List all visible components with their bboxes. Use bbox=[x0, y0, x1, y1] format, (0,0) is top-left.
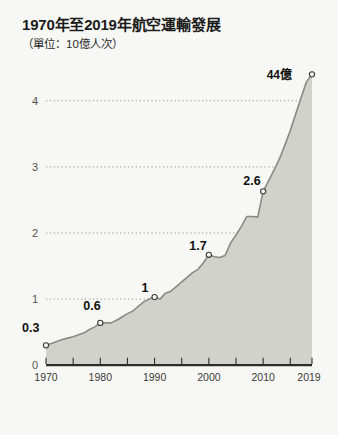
x-axis-labels: 1970 1980 1990 2000 2010 2019 bbox=[34, 371, 321, 383]
data-point-marker-2000 bbox=[206, 252, 211, 257]
data-label-1980: 0.6 bbox=[83, 299, 100, 313]
plot-area: 4 3 2 1 0 1970 1980 1990 2000 2010 2019 … bbox=[0, 0, 338, 435]
x-tick-label-2010: 2010 bbox=[252, 371, 276, 383]
data-point-marker-1970 bbox=[43, 343, 48, 348]
y-tick-label-1: 1 bbox=[32, 293, 38, 305]
data-point-marker-1980 bbox=[98, 320, 103, 325]
y-tick-label-2: 2 bbox=[32, 227, 38, 239]
data-label-1970: 0.3 bbox=[22, 321, 39, 335]
data-point-marker-2019 bbox=[309, 72, 314, 77]
data-point-marker-2010 bbox=[261, 189, 266, 194]
y-tick-label-4: 4 bbox=[32, 95, 38, 107]
x-tick-label-1990: 1990 bbox=[143, 371, 167, 383]
data-label-2010: 2.6 bbox=[243, 174, 260, 188]
x-tick-label-2019: 2019 bbox=[297, 371, 321, 383]
y-tick-label-3: 3 bbox=[32, 161, 38, 173]
x-tick-label-1980: 1980 bbox=[89, 371, 113, 383]
chart-svg: 4 3 2 1 0 1970 1980 1990 2000 2010 2019 … bbox=[0, 0, 338, 435]
x-tick-label-1970: 1970 bbox=[34, 371, 58, 383]
chart-card: 1970年至2019年航空運輸發展 （單位：10億人次） 4 3 2 bbox=[0, 0, 338, 435]
data-point-marker-1990 bbox=[152, 295, 157, 300]
data-label-2019: 44億 bbox=[267, 67, 292, 82]
area-fill bbox=[46, 74, 312, 365]
x-tick-label-2000: 2000 bbox=[197, 371, 221, 383]
y-tick-label-0: 0 bbox=[32, 359, 38, 371]
data-label-1990: 1 bbox=[142, 281, 149, 295]
data-label-2000: 1.7 bbox=[189, 239, 206, 253]
